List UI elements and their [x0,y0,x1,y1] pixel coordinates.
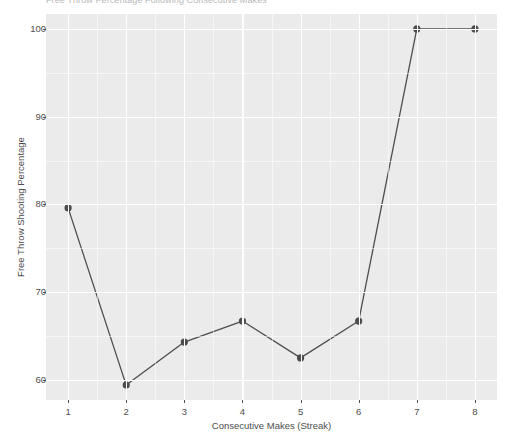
x-tick-mark [68,400,69,403]
gridline-minor-vertical [155,14,156,400]
y-tick-mark [43,117,46,118]
gridline-minor-vertical [272,14,273,400]
x-axis-title: Consecutive Makes (Streak) [46,420,497,432]
y-tick-mark [43,204,46,205]
x-tick-mark [184,400,185,403]
x-tick-label: 8 [455,406,495,417]
gridline-minor-vertical [388,14,389,400]
gridline-major-vertical [68,14,69,400]
gridline-major-vertical [359,14,360,400]
x-tick-mark [359,400,360,403]
gridline-major-vertical [475,14,476,400]
gridline-minor-vertical [213,14,214,400]
gridline-major-vertical [126,14,127,400]
x-tick-label: 7 [397,406,437,417]
y-tick-mark [43,292,46,293]
gridline-major-vertical [301,14,302,400]
y-axis-title: Free Throw Shooting Percentage [14,14,28,400]
y-tick-mark [43,29,46,30]
x-tick-label: 6 [339,406,379,417]
gridline-major-vertical [242,14,243,400]
gridline-major-vertical [417,14,418,400]
x-tick-label: 5 [281,406,321,417]
y-tick-mark [43,380,46,381]
plot-panel [46,14,497,400]
x-tick-label: 3 [164,406,204,417]
x-tick-mark [126,400,127,403]
gridline-major-vertical [184,14,185,400]
x-tick-label: 1 [48,406,88,417]
x-tick-mark [242,400,243,403]
gridline-minor-vertical [97,14,98,400]
x-tick-mark [475,400,476,403]
x-tick-mark [417,400,418,403]
x-tick-mark [301,400,302,403]
chart-root: Free Throw Percentage Following Consecut… [0,0,511,438]
chart-title: Free Throw Percentage Following Consecut… [46,0,497,7]
x-tick-label: 4 [222,406,262,417]
gridline-minor-vertical [446,14,447,400]
x-tick-label: 2 [106,406,146,417]
gridline-minor-vertical [330,14,331,400]
